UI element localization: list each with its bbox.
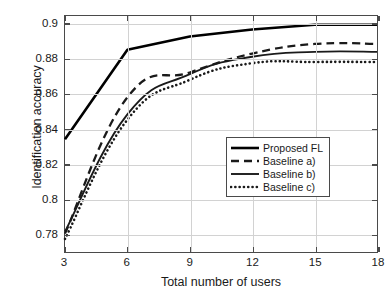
gridline-horizontal [65,200,377,201]
y-tick-mark [372,235,377,236]
legend-swatch-icon [230,142,260,154]
y-tick-mark [65,59,70,60]
x-tick-mark [378,16,379,21]
y-tick-mark [65,129,70,130]
y-tick-mark [372,200,377,201]
y-axis-tick-labels: 0.780.80.820.840.860.880.9 [0,0,58,300]
gridline-horizontal [65,130,377,131]
series-line-baseline-b [65,51,377,231]
x-axis-title: Total number of users [64,275,378,289]
x-tick-mark [127,247,128,252]
x-tick-mark [190,16,191,21]
x-tick-mark [64,247,65,252]
y-tick-label: 0.8 [42,193,58,205]
chart-legend: Proposed FLBaseline a)Baseline b)Baselin… [226,137,330,197]
x-tick-label: 3 [61,256,67,268]
legend-label: Proposed FL [263,142,323,154]
plot-area [64,15,378,253]
x-tick-label: 12 [246,256,259,268]
chart-figure: 0.780.80.820.840.860.880.9 Identificatio… [0,0,392,300]
legend-swatch-icon [230,181,260,193]
x-tick-label: 6 [124,256,130,268]
y-tick-mark [372,164,377,165]
y-tick-mark [65,200,70,201]
y-tick-label: 0.9 [42,17,58,29]
gridline-horizontal [65,235,377,236]
gridline-vertical [316,16,317,252]
x-tick-mark [127,16,128,21]
legend-label: Baseline c) [263,181,315,193]
x-tick-mark [253,247,254,252]
x-tick-label: 9 [186,256,192,268]
gridline-vertical [128,16,129,252]
y-tick-mark [372,23,377,24]
gridline-vertical [253,16,254,252]
y-tick-mark [65,164,70,165]
y-tick-mark [65,235,70,236]
legend-item[interactable]: Baseline b) [230,167,325,180]
legend-swatch-icon [230,155,260,167]
y-tick-mark [65,23,70,24]
y-axis-title: Identification accuracy [30,27,44,227]
x-tick-mark [64,16,65,21]
gridline-horizontal [65,59,377,60]
x-tick-mark [190,247,191,252]
x-tick-mark [316,16,317,21]
y-tick-mark [372,129,377,130]
legend-item[interactable]: Baseline c) [230,180,325,193]
x-tick-mark [316,247,317,252]
gridline-horizontal [65,94,377,95]
legend-label: Baseline a) [263,155,316,167]
series-lines [65,16,377,252]
legend-label: Baseline b) [263,168,316,180]
gridline-vertical [191,16,192,252]
gridline-horizontal [65,165,377,166]
legend-item[interactable]: Baseline a) [230,154,325,167]
y-tick-mark [65,94,70,95]
gridline-horizontal [65,24,377,25]
y-tick-mark [372,94,377,95]
legend-swatch-icon [230,168,260,180]
y-tick-label: 0.78 [36,228,58,240]
x-tick-mark [378,247,379,252]
x-tick-label: 18 [372,256,385,268]
y-tick-mark [372,59,377,60]
series-line-baseline-c [65,61,377,239]
legend-item[interactable]: Proposed FL [230,141,325,154]
x-tick-label: 15 [309,256,322,268]
x-tick-mark [253,16,254,21]
